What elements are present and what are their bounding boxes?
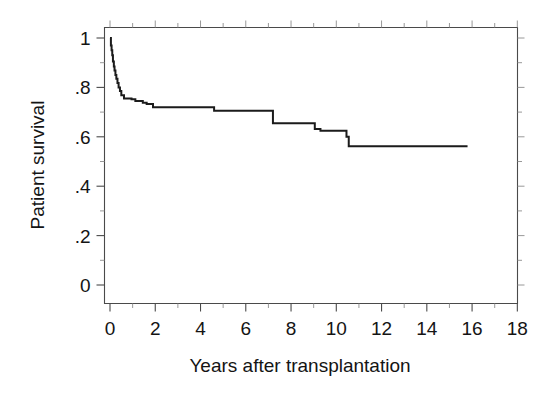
x-tick-label: 6 <box>240 318 251 339</box>
x-tick-label: 2 <box>150 318 161 339</box>
figure-container: 0.2.4.6.81 024681012141618 Patient survi… <box>0 0 545 394</box>
y-axis-title: Patient survival <box>27 101 48 230</box>
x-axis-title: Years after transplantation <box>189 355 410 376</box>
y-tick-label: .6 <box>75 127 91 148</box>
x-tick-label: 8 <box>286 318 297 339</box>
y-tick-label: .8 <box>75 77 91 98</box>
kaplan-meier-curve <box>110 38 468 146</box>
x-axis-ticks <box>110 21 517 312</box>
x-tick-label: 18 <box>507 318 528 339</box>
x-axis-tick-labels: 024681012141618 <box>105 318 528 339</box>
survival-chart: 0.2.4.6.81 024681012141618 Patient survi… <box>0 0 545 394</box>
x-tick-label: 0 <box>105 318 116 339</box>
x-tick-label: 12 <box>371 318 392 339</box>
y-tick-label: 1 <box>80 28 91 49</box>
y-axis-ticks <box>97 38 525 285</box>
y-tick-label: .2 <box>75 226 91 247</box>
y-axis-tick-labels: 0.2.4.6.81 <box>75 28 91 296</box>
x-tick-label: 16 <box>462 318 483 339</box>
x-tick-label: 14 <box>416 318 438 339</box>
x-tick-label: 10 <box>326 318 347 339</box>
x-tick-label: 4 <box>195 318 206 339</box>
y-tick-label: 0 <box>80 275 91 296</box>
y-tick-label: .4 <box>75 176 91 197</box>
plot-frame <box>105 28 518 304</box>
survival-curve-group <box>110 38 468 146</box>
